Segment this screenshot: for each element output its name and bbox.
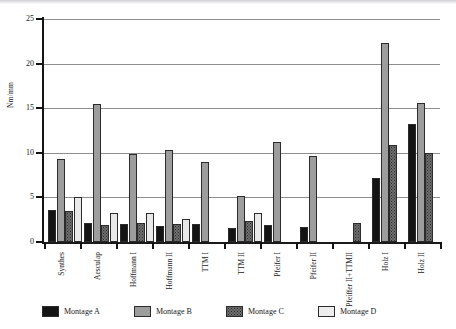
bar [84, 223, 92, 242]
x-axis-category-label: Hoffmann II [166, 252, 174, 290]
x-axis-tick [404, 242, 406, 249]
y-axis-tick-label: 0 [12, 238, 34, 246]
bar-group [188, 19, 224, 242]
x-axis-category-label: Holz II [418, 252, 426, 273]
legend-label: Montage D [340, 307, 376, 316]
x-axis-category-label: Hoffmann I [130, 252, 138, 287]
bar [201, 162, 209, 242]
x-axis-category-label: Pfeiffer II+TTMII [346, 252, 354, 307]
x-axis-category-label: Pfeifer I [274, 252, 282, 277]
y-axis-tick-label: 20 [12, 60, 34, 68]
x-axis-category-label: Synthes [58, 252, 66, 276]
scan-artifact-strip [0, 0, 456, 4]
bar-group [224, 19, 260, 242]
bar [101, 225, 109, 242]
bar [173, 224, 181, 242]
bar [129, 154, 137, 242]
y-axis-tick [36, 107, 44, 109]
bar [389, 145, 397, 242]
x-axis-tick [224, 242, 226, 249]
legend-item[interactable]: Montage A [42, 305, 100, 318]
y-axis-tick-label: 10 [12, 149, 34, 157]
bar-group [44, 19, 80, 242]
y-axis-tick [36, 196, 44, 198]
legend-swatch-icon [42, 306, 59, 317]
y-axis-tick [36, 63, 44, 65]
x-axis-tick [44, 242, 46, 249]
bar [300, 227, 308, 242]
bar [417, 103, 425, 242]
bar [65, 211, 73, 242]
bar [408, 124, 416, 242]
bar [425, 153, 433, 242]
x-axis-category-label: Aesculap [94, 252, 102, 280]
bar [245, 221, 253, 242]
x-axis-category-label: TTM II [238, 252, 246, 275]
bar [264, 225, 272, 242]
y-axis-tick [36, 18, 44, 20]
bar-group [116, 19, 152, 242]
y-axis-tick-label: 25 [12, 15, 34, 23]
x-axis-tick [80, 242, 82, 249]
legend-swatch-icon [318, 306, 335, 317]
bar [228, 228, 236, 242]
x-axis-tick [296, 242, 298, 249]
legend-label: Montage A [64, 307, 100, 316]
chart-legend: Montage AMontage BMontage CMontage D [42, 305, 422, 321]
bar [273, 142, 281, 242]
axis-baseline [44, 242, 440, 244]
x-axis-tick [152, 242, 154, 249]
bar-group [404, 19, 440, 242]
x-axis-tick [440, 242, 442, 249]
legend-item[interactable]: Montage B [134, 305, 192, 318]
bar-group [332, 19, 368, 242]
bar [93, 104, 101, 242]
bar [156, 226, 164, 242]
bar [309, 156, 317, 242]
x-axis-tick [260, 242, 262, 249]
bar [165, 150, 173, 242]
plot-area [44, 19, 440, 242]
legend-item[interactable]: Montage C [226, 305, 284, 318]
legend-label: Montage B [156, 307, 192, 316]
x-axis-tick [332, 242, 334, 249]
x-axis-category-label: Pfeifer II [310, 252, 318, 279]
bar [137, 223, 145, 242]
y-axis-tick-label: 15 [12, 104, 34, 112]
x-axis-category-label: Holz I [382, 252, 390, 271]
y-axis-tick [36, 241, 44, 243]
bar-group [80, 19, 116, 242]
bar [353, 223, 361, 242]
legend-item[interactable]: Montage D [318, 305, 376, 318]
bar [192, 224, 200, 242]
bar [372, 178, 380, 242]
bar-group [296, 19, 332, 242]
legend-swatch-icon [226, 306, 243, 317]
bar [120, 224, 128, 242]
x-axis-tick [368, 242, 370, 249]
legend-label: Montage C [248, 307, 284, 316]
legend-swatch-icon [134, 306, 151, 317]
x-axis-tick [116, 242, 118, 249]
bar [237, 196, 245, 242]
x-axis-category-label: TTM I [202, 252, 210, 272]
x-axis-tick [188, 242, 190, 249]
bar-group [152, 19, 188, 242]
y-axis-tick-label: 5 [12, 193, 34, 201]
bar-chart: Nm/mm 0510152025 SynthesAesculapHoffmann… [0, 0, 456, 329]
bar-group [368, 19, 404, 242]
y-axis-tick [36, 152, 44, 154]
y-axis-title: Nm/mm [6, 38, 18, 108]
bar [381, 43, 389, 242]
bar [48, 210, 56, 242]
bar-group [260, 19, 296, 242]
bar [57, 159, 65, 242]
